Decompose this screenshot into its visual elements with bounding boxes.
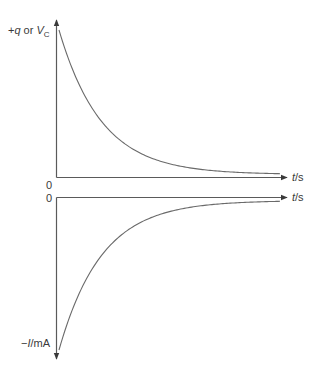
v-symbol: V bbox=[36, 24, 43, 36]
unit-text: /s bbox=[295, 191, 304, 203]
unit-text: /mA bbox=[31, 337, 51, 349]
lower-x-axis-label: t/s bbox=[292, 192, 304, 203]
charge-voltage-graph bbox=[57, 20, 288, 178]
upper-y-axis-label: +q or VC bbox=[8, 25, 50, 36]
lower-y-axis-label: −I/mA bbox=[21, 338, 50, 349]
current-curve bbox=[59, 201, 280, 350]
current-graph bbox=[57, 198, 288, 360]
c-subscript: C bbox=[44, 30, 50, 39]
unit-text: /s bbox=[295, 171, 304, 183]
lower-origin-label: 0 bbox=[46, 193, 52, 204]
or-text: or bbox=[21, 24, 37, 36]
upper-x-axis-label: t/s bbox=[292, 172, 304, 183]
decay-curve bbox=[59, 30, 280, 174]
upper-origin-label: 0 bbox=[46, 180, 52, 191]
